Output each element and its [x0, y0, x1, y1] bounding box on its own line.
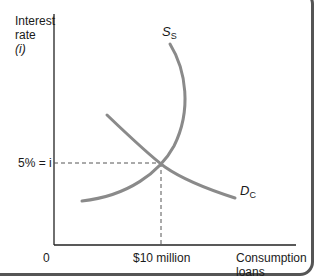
- y-axis-label-line3: (i): [15, 42, 26, 56]
- origin-label: 0: [43, 251, 50, 265]
- demand-label-main: D: [240, 183, 249, 198]
- chart-plot: [0, 0, 317, 280]
- x-axis-label-line1: Consumption: [236, 251, 307, 265]
- supply-curve-label: SS: [162, 24, 177, 41]
- y-tick-equilibrium-rate: 5% = i: [18, 156, 52, 170]
- demand-curve-dc: [107, 115, 235, 198]
- supply-curve-ss: [82, 44, 185, 201]
- demand-curve-label: DC: [240, 183, 256, 200]
- x-tick-equilibrium-quantity: $10 million: [133, 251, 190, 265]
- supply-label-main: S: [162, 24, 171, 39]
- y-axis-label-line2: rate: [15, 28, 36, 42]
- supply-label-sub: S: [171, 31, 177, 41]
- x-axis-label-line2: loans: [236, 265, 265, 279]
- demand-label-sub: C: [249, 190, 256, 200]
- y-axis-label-line1: Interest: [15, 14, 55, 28]
